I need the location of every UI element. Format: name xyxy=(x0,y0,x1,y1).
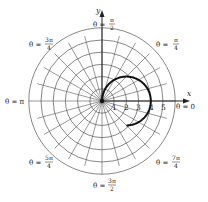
angle-label-theta-pi-2: θ = π 2 xyxy=(93,16,115,31)
grid-spoke xyxy=(37,84,102,101)
angle-label-theta-5pi-4: θ = 5π 4 xyxy=(29,154,53,169)
svg-text:θ =: θ = xyxy=(29,159,41,167)
grid-spoke xyxy=(85,36,102,101)
tick-label-1: 1 xyxy=(112,103,117,112)
angle-label-theta-3pi-2: θ = 3π 2 xyxy=(93,177,116,192)
svg-text:5π: 5π xyxy=(45,154,53,161)
grid-spoke xyxy=(85,101,102,166)
svg-text:π: π xyxy=(174,36,178,43)
angle-label-theta-7pi-4: θ = 7π 4 xyxy=(156,154,180,169)
grid-spoke xyxy=(68,101,102,159)
grid-spoke xyxy=(68,43,102,101)
svg-text:7π: 7π xyxy=(172,154,180,161)
angle-label-theta-pi: θ = π xyxy=(5,98,25,106)
svg-text:θ =: θ = xyxy=(29,41,41,49)
tick-label-3: 3 xyxy=(136,103,141,112)
svg-text:4: 4 xyxy=(47,44,51,51)
svg-text:θ =: θ = xyxy=(93,182,105,190)
polar-graph-figure: y x 1 2 3 4 5 θ = 0 θ = π θ = π 2 θ = π … xyxy=(0,0,208,202)
angle-label-theta-0: θ = 0 xyxy=(176,103,195,111)
svg-text:4: 4 xyxy=(47,162,51,169)
tick-label-4: 4 xyxy=(149,103,154,112)
svg-text:4: 4 xyxy=(174,44,178,51)
svg-text:θ =: θ = xyxy=(93,21,105,29)
svg-text:θ =: θ = xyxy=(156,159,168,167)
y-axis-label: y xyxy=(95,6,101,15)
grid-spoke xyxy=(102,43,136,101)
svg-text:θ =: θ = xyxy=(156,41,168,49)
grid-spoke xyxy=(55,54,102,101)
tick-label-2: 2 xyxy=(124,103,129,112)
svg-text:3π: 3π xyxy=(45,36,53,43)
grid-spoke xyxy=(37,101,102,118)
radial-tick-labels: 1 2 3 4 5 xyxy=(112,103,166,112)
x-axis-label: x xyxy=(187,89,192,98)
grid-spoke xyxy=(44,67,102,101)
svg-text:2: 2 xyxy=(110,185,114,192)
grid-spoke xyxy=(102,101,136,159)
svg-text:π: π xyxy=(110,16,114,23)
grid-spoke xyxy=(102,84,167,101)
grid-spoke xyxy=(55,101,102,148)
grid-spoke xyxy=(102,67,160,101)
svg-text:3π: 3π xyxy=(108,177,116,184)
angle-label-theta-3pi-4: θ = 3π 4 xyxy=(29,36,53,51)
y-axis-arrow-icon xyxy=(100,10,105,17)
polar-plot: y x 1 2 3 4 5 θ = 0 θ = π θ = π 2 θ = π … xyxy=(0,0,208,202)
angle-label-theta-pi-4: θ = π 4 xyxy=(156,36,179,51)
svg-text:2: 2 xyxy=(110,24,114,31)
grid-spoke xyxy=(44,101,102,135)
svg-text:4: 4 xyxy=(174,162,178,169)
tick-label-5: 5 xyxy=(161,103,166,112)
